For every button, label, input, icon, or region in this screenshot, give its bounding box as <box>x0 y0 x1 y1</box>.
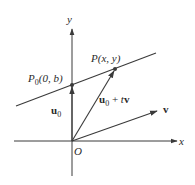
p0-label: P0(0, b) <box>27 72 63 87</box>
point-p0 <box>70 83 74 87</box>
vector-line-diagram: y x O P0(0, b) P(x, y) u0 u0 + tv v <box>0 0 195 185</box>
v-label: v <box>163 103 169 115</box>
u0-plus-tv-label: u0 + tv <box>99 93 130 108</box>
u0-label: u0 <box>51 104 61 119</box>
x-axis-label: x <box>178 135 184 147</box>
vector-v <box>72 111 157 141</box>
origin-label: O <box>74 145 82 157</box>
p-label: P(x, y) <box>90 52 121 65</box>
y-axis-label: y <box>66 13 72 25</box>
point-p <box>113 67 117 71</box>
